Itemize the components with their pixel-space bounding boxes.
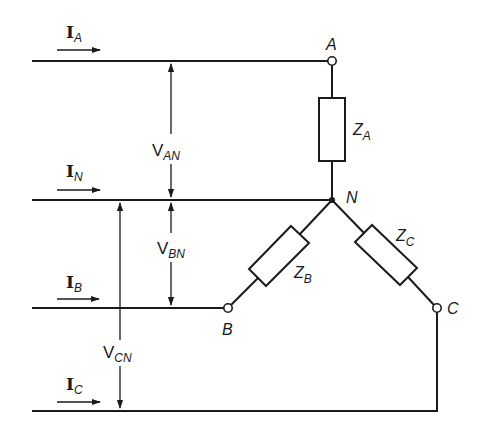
node-c-terminal <box>433 304 441 312</box>
voltage-vcn: VCN <box>103 203 132 408</box>
current-ic: IC <box>57 374 100 402</box>
line-c <box>32 312 438 411</box>
current-ib: IB <box>57 272 99 299</box>
node-a-terminal <box>328 57 336 65</box>
svg-text:VCN: VCN <box>103 343 132 365</box>
node-n-junction <box>329 197 335 203</box>
svg-text:VBN: VBN <box>157 239 185 261</box>
svg-text:IC: IC <box>66 374 83 397</box>
impedance-za <box>319 98 345 161</box>
voltage-van: VAN <box>152 64 180 197</box>
current-in: IN <box>57 161 100 190</box>
svg-text:IA: IA <box>66 22 82 45</box>
node-label-c: C <box>447 300 459 317</box>
label-zb: ZB <box>293 264 312 286</box>
svg-text:IN: IN <box>66 161 83 184</box>
svg-text:VAN: VAN <box>152 141 180 163</box>
svg-text:IB: IB <box>66 272 82 295</box>
node-b-terminal <box>224 304 232 312</box>
branch-a <box>319 65 345 200</box>
wye-circuit-diagram: A N B C ZA ZB ZC IA IN IB IC VAN VBN <box>0 0 479 434</box>
label-zc: ZC <box>395 227 415 249</box>
node-label-a: A <box>325 36 337 53</box>
voltage-vbn: VBN <box>157 203 185 305</box>
node-label-n: N <box>346 189 358 206</box>
branch-b <box>231 200 332 305</box>
branch-c <box>332 200 434 305</box>
label-za: ZA <box>352 121 371 143</box>
impedance-zc <box>355 225 417 285</box>
current-ia: IA <box>57 22 100 50</box>
node-label-b: B <box>222 321 233 338</box>
